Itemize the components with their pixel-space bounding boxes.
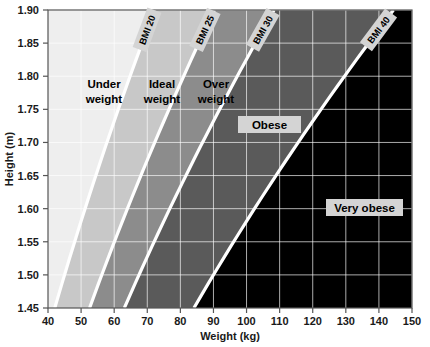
x-tick-labels: 405060708090100110120130140150 — [42, 315, 421, 327]
x-tick-label: 80 — [174, 315, 186, 327]
y-tick-label: 1.50 — [18, 269, 39, 281]
region-label-over-weight-line1: Over — [203, 78, 230, 90]
region-label-over-weight-line2: weight — [197, 93, 235, 105]
region-label-obese: Obese — [238, 116, 301, 133]
y-tick-label: 1.70 — [18, 136, 39, 148]
bmi-chart-svg: 405060708090100110120130140150 1.451.501… — [0, 0, 430, 347]
region-label-very-obese: Very obese — [326, 199, 403, 216]
region-label-obese-text: Obese — [252, 119, 287, 131]
y-tick-labels: 1.451.501.551.601.651.701.751.801.851.90 — [18, 4, 39, 314]
x-tick-label: 110 — [271, 315, 289, 327]
region-label-ideal-weight-line1: Ideal — [149, 78, 175, 90]
y-tick-label: 1.45 — [18, 302, 39, 314]
y-axis-title: Height (m) — [3, 131, 15, 186]
x-tick-label: 50 — [75, 315, 87, 327]
y-tick-label: 1.65 — [18, 170, 39, 182]
x-tick-label: 70 — [141, 315, 153, 327]
x-axis-title: Weight (kg) — [200, 330, 260, 342]
y-tick-label: 1.55 — [18, 236, 39, 248]
y-tick-label: 1.60 — [18, 203, 39, 215]
bmi-chart: 405060708090100110120130140150 1.451.501… — [0, 0, 430, 347]
y-tick-label: 1.75 — [18, 103, 39, 115]
x-tick-label: 40 — [42, 315, 54, 327]
region-label-very-obese-text: Very obese — [334, 202, 395, 214]
x-tick-label: 90 — [207, 315, 219, 327]
region-label-ideal-weight-line2: weight — [143, 93, 181, 105]
y-tick-label: 1.80 — [18, 70, 39, 82]
x-tick-label: 130 — [337, 315, 355, 327]
region-label-under-weight-line2: weight — [85, 93, 123, 105]
x-tick-label: 60 — [108, 315, 120, 327]
x-tick-label: 150 — [403, 315, 421, 327]
y-tick-label: 1.90 — [18, 4, 39, 16]
x-tick-label: 120 — [304, 315, 322, 327]
y-tick-label: 1.85 — [18, 37, 39, 49]
x-tick-label: 100 — [237, 315, 255, 327]
x-tick-label: 140 — [370, 315, 388, 327]
region-label-under-weight-line1: Under — [87, 78, 121, 90]
